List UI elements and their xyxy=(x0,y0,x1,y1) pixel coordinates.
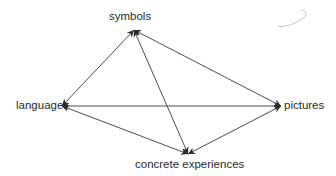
edge-symbols-concrete xyxy=(134,30,188,154)
diagram-canvas: symbols language pictures concrete exper… xyxy=(0,0,336,176)
node-label-language: language xyxy=(16,100,63,112)
node-label-concrete-experiences: concrete experiences xyxy=(135,159,244,171)
pen-squiggle-annotation xyxy=(278,10,306,27)
diagram-edges xyxy=(0,0,336,176)
edge-concrete-pictures xyxy=(188,106,281,154)
edge-language-symbols xyxy=(62,30,134,106)
edge-symbols-pictures xyxy=(134,30,281,106)
node-label-symbols: symbols xyxy=(109,11,151,23)
node-label-pictures: pictures xyxy=(284,100,324,112)
edge-language-concrete xyxy=(62,106,188,154)
